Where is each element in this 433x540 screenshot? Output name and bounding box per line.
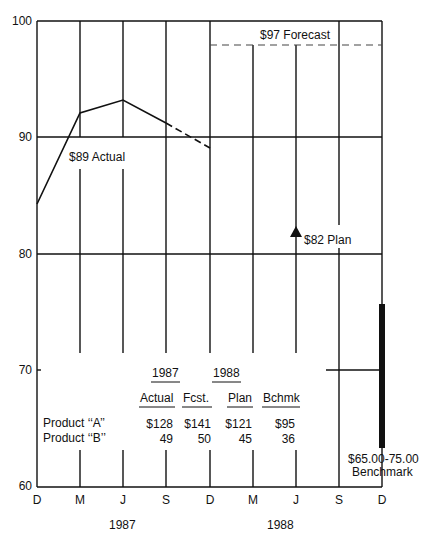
table-col-fcst: Fcst. xyxy=(183,392,209,405)
table-row-b-bchmk: 36 xyxy=(260,432,295,446)
x-tick-s-1988: S xyxy=(329,493,349,507)
y-tick-100: 100 xyxy=(2,14,32,28)
table-row-a-plan: $121 xyxy=(215,417,252,431)
x-tick-m-1987: M xyxy=(70,493,90,507)
table-row-a-actual: $128 xyxy=(135,417,173,431)
table-col-actual: Actual xyxy=(140,392,173,405)
y-tick-80: 80 xyxy=(2,247,32,261)
table-row-a-fcst: $141 xyxy=(175,417,211,431)
table-group-1987: 1987 xyxy=(152,367,179,380)
table-group-1988: 1988 xyxy=(213,367,240,380)
plan-label: $82 Plan xyxy=(304,234,351,247)
forecast-label: $97 Forecast xyxy=(260,29,330,42)
year-label-1988: 1988 xyxy=(267,518,294,532)
x-tick-d-1987: D xyxy=(200,493,220,507)
y-tick-70: 70 xyxy=(2,363,32,377)
table-row-b-actual: 49 xyxy=(135,432,173,446)
table-row-b-label: Product ‘‘B’’ xyxy=(43,432,106,445)
x-tick-d-1988: D xyxy=(372,493,392,507)
table-row-b-fcst: 50 xyxy=(175,432,211,446)
x-tick-s-1987: S xyxy=(156,493,176,507)
table-row-a-bchmk: $95 xyxy=(260,417,295,431)
x-tick-j-1987: J xyxy=(113,493,133,507)
table-col-bchmk: Bchmk xyxy=(263,392,300,405)
actual-label: $89 Actual xyxy=(69,151,125,164)
table-row-b-plan: 45 xyxy=(215,432,252,446)
x-tick-j-1988: J xyxy=(286,493,306,507)
table-row-a-label: Product ‘‘A’’ xyxy=(43,417,105,430)
y-tick-90: 90 xyxy=(2,130,32,144)
benchmark-bar xyxy=(379,304,385,448)
plan-arrow-icon xyxy=(290,226,302,237)
y-tick-60: 60 xyxy=(2,479,32,493)
benchmark-label: Benchmark xyxy=(352,466,413,479)
year-label-1987: 1987 xyxy=(109,518,136,532)
x-tick-m-1988: M xyxy=(243,493,263,507)
x-tick-d-1986: D xyxy=(27,493,47,507)
table-col-plan: Plan xyxy=(228,392,252,405)
actual-projected-line xyxy=(166,123,210,148)
